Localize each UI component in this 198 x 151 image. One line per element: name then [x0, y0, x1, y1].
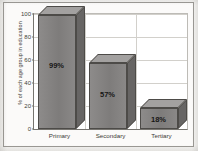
x-tick-label: Primary [34, 132, 85, 139]
bar-side-face [127, 54, 136, 129]
y-tick-mark [32, 60, 34, 61]
y-tick-mark [32, 129, 34, 130]
y-tick-mark [32, 14, 34, 15]
bar: 18% [140, 108, 178, 129]
x-tick-label: Secondary [85, 132, 136, 139]
plot-area: 020406080100 99%57%18% PrimarySecondaryT… [33, 13, 188, 130]
bar-front-face [38, 15, 76, 129]
bar-value-label: 99% [38, 61, 76, 70]
bar-value-label: 18% [140, 115, 178, 124]
category-separator [136, 14, 137, 129]
y-tick-label: 20 [24, 103, 31, 109]
chart-figure: % of each age group in education 0204060… [0, 0, 198, 151]
y-tick-mark [32, 106, 34, 107]
y-tick-mark [32, 37, 34, 38]
bar: 99% [38, 15, 76, 129]
y-tick-label: 0 [28, 126, 31, 132]
y-tick-label: 100 [21, 11, 31, 17]
bar-side-face [76, 6, 85, 129]
y-tick-label: 60 [24, 57, 31, 63]
y-tick-label: 80 [24, 34, 31, 40]
bar: 57% [89, 63, 127, 129]
y-tick-mark [32, 83, 34, 84]
bar-value-label: 57% [89, 90, 127, 99]
y-axis-title: % of each age group in education [17, 8, 23, 118]
y-tick-label: 40 [24, 80, 31, 86]
category-separator [85, 14, 86, 129]
x-tick-label: Tertiary [136, 132, 187, 139]
